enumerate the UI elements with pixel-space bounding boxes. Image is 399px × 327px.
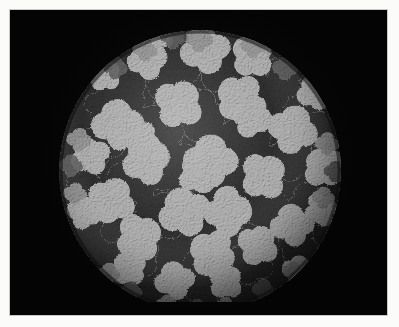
image-plate-frame: [9, 9, 388, 316]
image-plate-black-background: [10, 10, 387, 315]
figure-page: Space-filling surface rendering of a sph…: [0, 0, 399, 327]
virus-capsid-figure: [58, 12, 342, 302]
capsid-sphere-body: [59, 12, 342, 302]
capsid-render-svg: [58, 12, 342, 302]
